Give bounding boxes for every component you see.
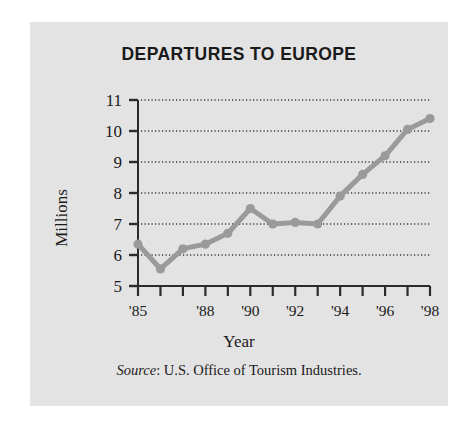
chart-figure: DEPARTURES TO EUROPE 111098765 '85'88'90…: [30, 22, 448, 406]
data-series-departures: [133, 114, 434, 274]
data-point: [268, 219, 277, 228]
data-point: [403, 125, 412, 134]
data-point: [313, 219, 322, 228]
x-tick-label: '85: [129, 302, 148, 319]
data-point: [425, 114, 434, 123]
data-point: [178, 244, 187, 253]
y-tick-label: 11: [106, 91, 122, 110]
y-axis-title: Millions: [52, 158, 72, 278]
x-tick-label: '96: [376, 302, 395, 319]
data-point: [156, 264, 165, 273]
y-tick-label: 5: [114, 277, 123, 296]
data-point: [133, 240, 142, 249]
series-markers-group: [133, 114, 434, 274]
y-tick-marks-group: [129, 100, 138, 286]
x-tick-label: '98: [421, 302, 440, 319]
x-tick-marks-group: [138, 286, 430, 296]
y-tick-labels-group: 111098765: [105, 91, 123, 296]
y-tick-label: 9: [114, 153, 123, 172]
data-point: [336, 192, 345, 201]
y-tick-label: 6: [114, 246, 123, 265]
x-tick-label: '88: [196, 302, 215, 319]
x-axis-title: Year: [30, 332, 448, 352]
y-tick-label: 7: [114, 215, 123, 234]
plot-area: 111098765 '85'88'90'92'94'96'98 Millions…: [30, 22, 448, 406]
source-note: Source: U.S. Office of Tourism Industrie…: [30, 362, 448, 379]
x-tick-label: '94: [331, 302, 350, 319]
gridlines-group: [141, 100, 430, 255]
y-tick-label: 8: [114, 184, 123, 203]
data-point: [246, 204, 255, 213]
source-label: Source: [116, 362, 156, 378]
data-point: [201, 240, 210, 249]
y-tick-label: 10: [105, 122, 122, 141]
source-body: : U.S. Office of Tourism Industries.: [156, 362, 361, 378]
x-tick-labels-group: '85'88'90'92'94'96'98: [129, 302, 440, 319]
data-point: [380, 151, 389, 160]
data-point: [223, 229, 232, 238]
data-point: [291, 218, 300, 227]
x-tick-label: '92: [286, 302, 304, 319]
x-tick-label: '90: [241, 302, 260, 319]
data-point: [358, 170, 367, 179]
